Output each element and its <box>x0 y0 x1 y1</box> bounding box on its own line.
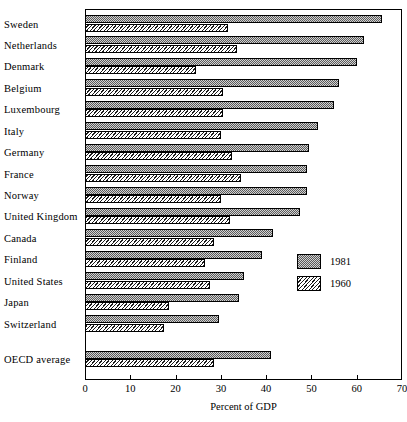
bar-1981 <box>85 101 334 109</box>
x-axis-tick-label: 10 <box>125 383 136 394</box>
category-label: Finland <box>4 254 76 265</box>
legend-label-1960: 1960 <box>330 278 351 289</box>
legend-item-1981: 1981 <box>297 253 389 269</box>
category-label: Japan <box>4 297 76 308</box>
category-label: Denmark <box>4 61 76 72</box>
category-label: Canada <box>4 233 76 244</box>
bar-1960 <box>85 324 164 332</box>
x-axis-tick-label: 0 <box>82 383 87 394</box>
x-axis-tick <box>311 375 312 380</box>
category-label: Italy <box>4 126 76 137</box>
x-axis: 010203040506070 <box>85 380 402 381</box>
legend: 1981 1960 <box>297 253 389 297</box>
x-axis-tick <box>357 375 358 380</box>
bar-1960 <box>85 66 196 74</box>
bar-1960 <box>85 45 237 53</box>
bar-1981 <box>85 208 300 216</box>
bar-1981 <box>85 79 339 87</box>
legend-swatch-1960-icon <box>297 276 321 291</box>
bar-1960 <box>85 238 214 246</box>
bar-1981 <box>85 58 357 66</box>
bar-1960 <box>85 109 223 117</box>
bar-1960 <box>85 24 228 32</box>
bar-1960 <box>85 259 205 267</box>
category-label: Luxembourg <box>4 104 76 115</box>
bar-1981 <box>85 229 273 237</box>
bar-1981 <box>85 15 382 23</box>
bar-1981 <box>85 294 239 302</box>
category-label-column: SwedenNetherlandsDenmarkBelgiumLuxembour… <box>0 9 82 380</box>
bar-1981 <box>85 315 219 323</box>
x-axis-tick-label: 60 <box>351 383 362 394</box>
bar-1981 <box>85 144 309 152</box>
x-axis-tick-label: 40 <box>261 383 272 394</box>
x-axis-tick-label: 70 <box>397 383 407 394</box>
bar-1960 <box>85 195 221 203</box>
category-label: Norway <box>4 190 76 201</box>
category-label: Belgium <box>4 83 76 94</box>
category-label: Netherlands <box>4 40 76 51</box>
category-label: Sweden <box>4 19 76 30</box>
bar-1981 <box>85 272 244 280</box>
x-axis-tick <box>266 375 267 380</box>
category-label: Switzerland <box>4 319 76 330</box>
bar-1981 <box>85 187 307 195</box>
legend-swatch-1981-icon <box>297 254 321 269</box>
category-label: OECD average <box>4 354 76 365</box>
legend-item-1960: 1960 <box>297 275 389 291</box>
bar-1960 <box>85 302 169 310</box>
bar-1981 <box>85 36 364 44</box>
x-axis-tick <box>130 375 131 380</box>
category-label: France <box>4 169 76 180</box>
bar-1960 <box>85 88 223 96</box>
bar-1981 <box>85 351 271 359</box>
category-label: Germany <box>4 147 76 158</box>
bar-1960 <box>85 131 221 139</box>
bar-1960 <box>85 174 241 182</box>
bar-1960 <box>85 216 230 224</box>
bar-1960 <box>85 152 232 160</box>
x-axis-title: Percent of GDP <box>85 401 402 412</box>
legend-label-1981: 1981 <box>330 256 351 267</box>
x-axis-tick-label: 50 <box>306 383 317 394</box>
category-label: United States <box>4 276 76 287</box>
bar-1981 <box>85 251 262 259</box>
x-axis-tick <box>221 375 222 380</box>
x-axis-tick-label: 20 <box>170 383 181 394</box>
bar-1960 <box>85 359 214 367</box>
category-label: United Kingdom <box>4 211 76 222</box>
x-axis-tick-label: 30 <box>216 383 227 394</box>
bar-1960 <box>85 281 210 289</box>
bar-1981 <box>85 122 318 130</box>
bars-layer <box>85 9 402 380</box>
x-axis-tick <box>176 375 177 380</box>
horizontal-bar-chart: SwedenNetherlandsDenmarkBelgiumLuxembour… <box>0 0 407 422</box>
bar-1981 <box>85 165 307 173</box>
